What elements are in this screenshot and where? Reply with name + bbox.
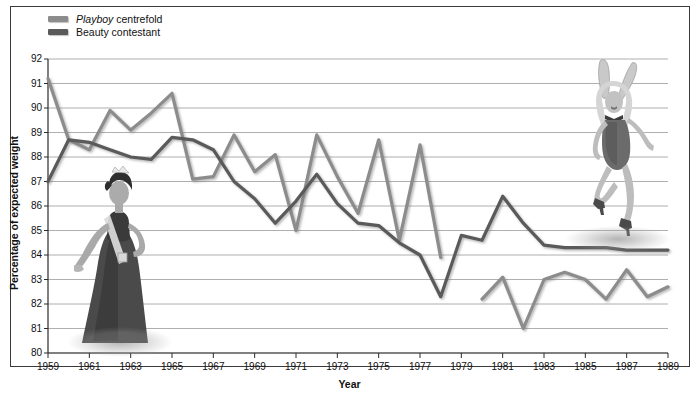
x-tick-label: 1959 bbox=[28, 361, 68, 372]
x-tick-label: 1975 bbox=[359, 361, 399, 372]
beauty-contestant-shadow bbox=[68, 327, 172, 357]
playboy-bunny-illustration bbox=[574, 58, 660, 250]
x-tick-label: 1971 bbox=[276, 361, 316, 372]
x-axis-title: Year bbox=[0, 378, 699, 390]
series-line-1 bbox=[482, 270, 668, 329]
x-tick-label: 1987 bbox=[607, 361, 647, 372]
chart-screenshot: Playboy centrefold Beauty contestant Per… bbox=[0, 0, 699, 402]
x-tick-label: 1977 bbox=[400, 361, 440, 372]
beauty-contestant-illustration bbox=[74, 165, 166, 355]
x-tick-label: 1969 bbox=[235, 361, 275, 372]
x-tick-label: 1981 bbox=[483, 361, 523, 372]
x-tick-label: 1979 bbox=[441, 361, 481, 372]
x-tick-label: 1961 bbox=[69, 361, 109, 372]
x-tick-label: 1963 bbox=[111, 361, 151, 372]
x-tick-label: 1983 bbox=[524, 361, 564, 372]
x-tick-label: 1967 bbox=[193, 361, 233, 372]
x-tick-label: 1985 bbox=[565, 361, 605, 372]
x-tick-label: 1965 bbox=[152, 361, 192, 372]
playboy-bunny-figure bbox=[574, 58, 660, 250]
x-tick-label: 1973 bbox=[317, 361, 357, 372]
playboy-bunny-shadow bbox=[566, 226, 670, 252]
x-tick-label: 1989 bbox=[648, 361, 688, 372]
